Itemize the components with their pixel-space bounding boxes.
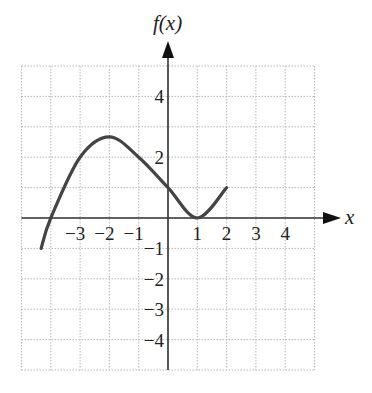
y-axis-arrow-icon xyxy=(162,41,174,58)
x-tick-label: −2 xyxy=(94,223,114,244)
x-tick-label: 4 xyxy=(280,223,290,244)
y-tick-label: −3 xyxy=(144,299,164,320)
x-axis-label: x xyxy=(344,205,355,229)
y-axis-label: f(x) xyxy=(153,11,182,35)
x-axis-arrow-icon xyxy=(323,212,341,224)
y-tick-label: −2 xyxy=(144,269,164,290)
y-tick-label: 4 xyxy=(155,86,165,107)
y-tick-label: 2 xyxy=(155,147,165,168)
x-tick-label: −3 xyxy=(65,223,85,244)
x-tick-label: 3 xyxy=(251,223,261,244)
function-graph: −3−2−1123442−1−2−3−4 x f(x) xyxy=(0,0,372,393)
x-tick-label: 2 xyxy=(222,223,232,244)
x-tick-label: −1 xyxy=(124,223,144,244)
y-tick-label: −4 xyxy=(144,330,165,351)
x-tick-label: 1 xyxy=(193,223,203,244)
y-tick-label: −1 xyxy=(144,238,164,259)
